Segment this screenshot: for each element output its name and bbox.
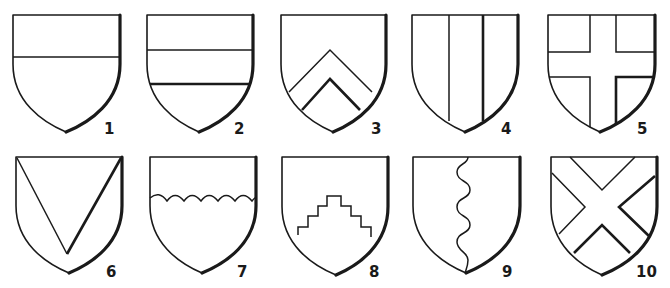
shield-number-label: 2 xyxy=(234,120,244,138)
shield-outline xyxy=(412,15,518,132)
shield-number-label: 10 xyxy=(636,263,657,281)
shield-7: 7 xyxy=(150,157,256,281)
shield-number-label: 9 xyxy=(502,263,512,281)
shield-outline xyxy=(147,15,253,132)
shield-3: 3 xyxy=(281,15,386,138)
shield-outline xyxy=(281,15,386,132)
shield-outline xyxy=(548,15,655,132)
shield-9: 9 xyxy=(413,157,520,281)
shield-outline xyxy=(282,157,388,275)
shield-number-label: 6 xyxy=(106,263,116,281)
shield-outline xyxy=(150,157,256,273)
shield-number-label: 4 xyxy=(501,120,511,138)
shield-number-label: 7 xyxy=(237,263,247,281)
shield-4: 4 xyxy=(412,15,518,138)
shield-outline xyxy=(551,157,657,275)
shield-8: 8 xyxy=(282,157,388,281)
heraldic-divisions-figure: 12345678910 xyxy=(0,0,670,288)
shield-10: 10 xyxy=(551,157,657,281)
shield-number-label: 8 xyxy=(369,263,379,281)
shield-1: 1 xyxy=(13,15,120,138)
shield-5: 5 xyxy=(548,15,655,138)
shield-outline xyxy=(13,15,120,132)
shield-6: 6 xyxy=(16,157,122,281)
shield-number-label: 5 xyxy=(637,120,647,138)
shield-number-label: 1 xyxy=(104,120,114,138)
shield-2: 2 xyxy=(147,15,253,138)
shield-outline xyxy=(16,157,122,273)
shield-number-label: 3 xyxy=(371,120,381,138)
